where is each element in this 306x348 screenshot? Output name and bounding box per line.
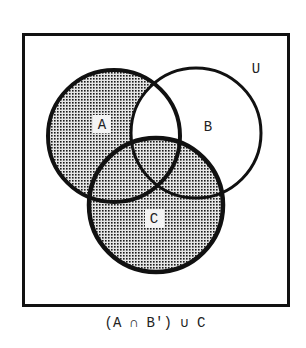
label-c: C bbox=[150, 211, 158, 227]
caption: (A ∩ B') ∪ C bbox=[105, 315, 206, 331]
label-universe: U bbox=[252, 61, 260, 77]
label-a: A bbox=[98, 117, 107, 133]
venn-diagram: A B C U (A ∩ B') ∪ C bbox=[0, 0, 306, 348]
label-b: B bbox=[204, 119, 212, 135]
